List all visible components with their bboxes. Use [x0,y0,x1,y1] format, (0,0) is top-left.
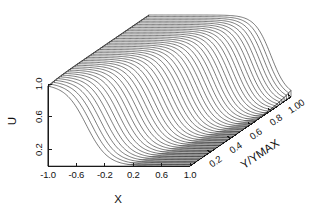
u-tick-label-0: 0.2 [33,143,44,156]
x-axis-title: X [114,193,122,205]
figure-3d-surface-plot: -1.0-0.6-0.20.20.61.00.20.61.00.20.40.60… [0,0,327,216]
u-tick-label-2: 1.0 [33,78,44,91]
x-tick-label-3: 0.2 [127,169,140,180]
plot-canvas: -1.0-0.6-0.20.20.61.00.20.61.00.20.40.60… [0,0,327,216]
x-tick-label-1: -0.6 [69,169,85,180]
u-tick-label-1: 0.6 [33,110,44,123]
x-tick-label-4: 0.6 [155,169,168,180]
x-tick-label-0: -1.0 [40,169,56,180]
x-tick-label-5: 1.0 [184,169,197,180]
x-tick-label-2: -0.2 [97,169,113,180]
u-axis-title: U [6,117,18,125]
